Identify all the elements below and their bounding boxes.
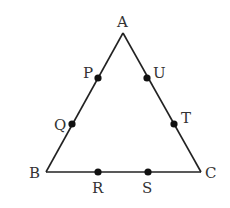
label-q: Q (54, 116, 66, 134)
label-a: A (116, 13, 128, 31)
label-s: S (142, 179, 152, 197)
point-p (94, 74, 101, 81)
point-u (143, 74, 150, 81)
point-q (68, 120, 75, 127)
point-r (94, 168, 101, 175)
point-s (144, 168, 151, 175)
point-t (170, 120, 177, 127)
edge-ab (46, 33, 123, 172)
label-u: U (153, 64, 166, 82)
label-c: C (205, 164, 216, 182)
triangle-diagram: A B C P Q R S T U (0, 0, 230, 208)
label-t: T (181, 109, 191, 127)
label-p: P (83, 64, 93, 82)
edge-ca (123, 33, 201, 172)
label-b: B (29, 164, 40, 182)
label-r: R (92, 179, 104, 197)
